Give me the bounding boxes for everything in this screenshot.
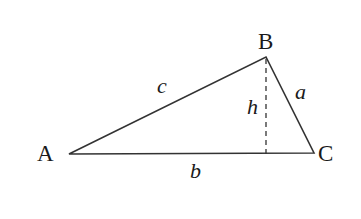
side-label-b: b	[190, 158, 201, 183]
altitude-label-h: h	[247, 94, 258, 119]
side-label-c: c	[157, 73, 167, 98]
vertex-label-b: B	[258, 29, 273, 54]
vertex-label-c: C	[318, 141, 333, 166]
triangle-abc	[69, 57, 314, 154]
vertex-label-a: A	[37, 141, 54, 166]
triangle-diagram: A B C c a b h	[0, 0, 361, 219]
side-label-a: a	[295, 79, 306, 104]
